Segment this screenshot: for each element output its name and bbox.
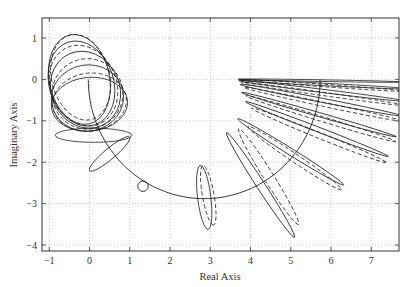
y-tick-label: −2 <box>26 157 37 168</box>
y-axis-label: Imaginary Axis <box>8 102 19 167</box>
uncertainty-ellipse-dashed <box>197 165 219 226</box>
chart-container: −10123456710−1−2−3−4 Real Axis Imaginary… <box>0 0 417 287</box>
x-tick-label: −1 <box>44 255 55 266</box>
clipped-curves <box>37 28 407 239</box>
uncertainty-ellipse-dashed <box>251 105 388 165</box>
x-tick-label: 7 <box>369 255 374 266</box>
y-tick-label: 1 <box>32 33 37 44</box>
y-tick-label: 0 <box>32 74 37 85</box>
loop-solid <box>46 59 129 137</box>
marker-circle <box>138 181 148 191</box>
uncertainty-ellipse-solid <box>223 130 298 239</box>
x-tick-label: 2 <box>168 255 173 266</box>
x-tick-label: 0 <box>87 255 92 266</box>
x-tick-label: 5 <box>288 255 293 266</box>
plot-frame <box>42 18 399 251</box>
x-tick-label: 3 <box>208 255 213 266</box>
x-axis-label: Real Axis <box>199 271 240 282</box>
x-tick-label: 4 <box>248 255 253 266</box>
x-tick-label: 1 <box>127 255 132 266</box>
uncertainty-ellipse-solid <box>194 165 215 231</box>
uncertainty-ellipse-dashed <box>245 93 397 144</box>
grid-lines <box>42 18 399 251</box>
nyquist-plot: −10123456710−1−2−3−4 Real Axis Imaginary… <box>0 0 417 287</box>
x-tick-label: 6 <box>329 255 334 266</box>
y-tick-label: −3 <box>26 198 37 209</box>
nominal-arc <box>88 79 320 198</box>
y-tick-label: −4 <box>26 240 37 251</box>
y-tick-label: −1 <box>26 115 37 126</box>
plot-curves <box>37 28 407 239</box>
